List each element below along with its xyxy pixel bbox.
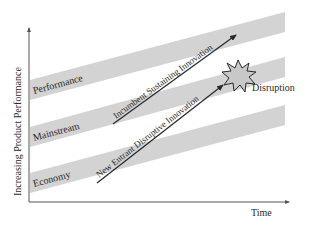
y-axis-label: Increasing Product Performance <box>12 67 23 196</box>
x-axis-label: Time <box>251 207 272 218</box>
disruption-diagram: Performance Mainstream Economy Increasin… <box>0 0 309 227</box>
disruption-label: Disruption <box>252 82 295 93</box>
